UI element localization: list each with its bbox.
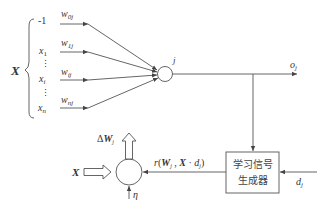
delta-w-hollow-arrow <box>122 133 136 159</box>
weight-connection-1 <box>88 52 157 72</box>
weight-connection-n <box>88 78 158 108</box>
input-label-x1: x1 <box>38 45 47 58</box>
weight-label-w0j: w0j <box>61 8 73 21</box>
input-label-bias: -1 <box>38 15 46 26</box>
weight-label-w1j: w1j <box>61 37 73 50</box>
input-label-xi: xi <box>38 73 45 86</box>
learning-signal-label: r(Wj , X · dj) <box>154 157 204 169</box>
eta-label: η <box>133 189 138 200</box>
svg-text:xn: xn <box>37 102 46 115</box>
weight-connection-i <box>88 75 157 80</box>
learning-rule-diagram: X -1 x1 ⋮ xi ⋮ xn w0j w1j wij wnj j oj 学… <box>0 0 328 212</box>
generator-label-line2: 生成器 <box>238 174 268 186</box>
x-input-hollow-arrow <box>84 165 111 179</box>
ellipsis-2: ⋮ <box>41 88 50 98</box>
output-label: oj <box>290 59 297 72</box>
weight-connection-0 <box>88 24 157 70</box>
x-input-label: X <box>71 166 80 178</box>
neuron-node <box>158 67 173 82</box>
desired-label: dj <box>296 176 303 189</box>
weight-label-wij: wij <box>61 66 72 79</box>
generator-label-line1: 学习信号 <box>233 158 273 170</box>
delta-w-label: ΔWj <box>97 133 114 145</box>
neuron-label: j <box>172 55 176 65</box>
weight-update-node <box>116 159 142 185</box>
svg-text:xi: xi <box>38 73 45 86</box>
weight-label-wnj: wnj <box>61 94 73 107</box>
input-label-xn: xn <box>37 102 46 115</box>
svg-text:x1: x1 <box>38 45 47 58</box>
input-brace <box>25 19 34 118</box>
input-vector-label: X <box>10 63 20 78</box>
ellipsis-1: ⋮ <box>41 59 50 69</box>
